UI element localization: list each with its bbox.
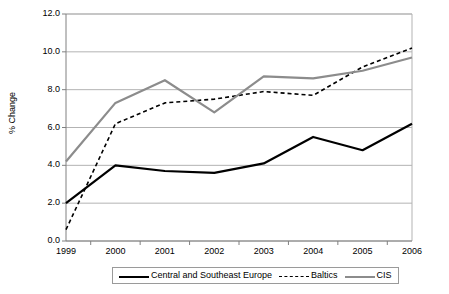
legend-label-cis: CIS bbox=[377, 271, 392, 280]
legend-item-central-and-southeast-europe: Central and Southeast Europe bbox=[119, 271, 272, 280]
legend-swatch-solid-gray-icon bbox=[345, 271, 375, 280]
legend-swatch-dashed-black-icon bbox=[279, 271, 309, 280]
legend: Central and Southeast Europe Baltics CIS bbox=[112, 267, 399, 284]
legend-item-cis: CIS bbox=[338, 271, 392, 280]
legend-label-baltics: Baltics bbox=[311, 271, 338, 280]
legend-item-baltics: Baltics bbox=[272, 271, 338, 280]
line-chart: % Change 0.02.04.06.08.010.012.0 1999200… bbox=[0, 0, 449, 294]
plot-area bbox=[0, 0, 449, 294]
legend-label-central-and-southeast-europe: Central and Southeast Europe bbox=[151, 271, 272, 280]
legend-swatch-solid-black-icon bbox=[119, 271, 149, 280]
